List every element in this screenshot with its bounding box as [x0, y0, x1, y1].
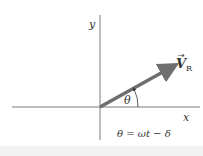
equation: θ = ωt − δ	[117, 128, 171, 139]
bottom-band	[0, 146, 203, 156]
angle-label: θ	[124, 94, 131, 107]
phasor-diagram: y x VR → θ θ = ωt − δ	[0, 0, 203, 156]
x-axis-label: x	[183, 111, 190, 124]
phasor-vector-arrow	[100, 68, 170, 107]
y-axis-label: y	[88, 18, 96, 31]
angle-arc	[134, 89, 138, 107]
vector-arrow-mark: →	[178, 51, 185, 60]
diagram-svg: y x VR → θ θ = ωt − δ	[0, 0, 203, 156]
